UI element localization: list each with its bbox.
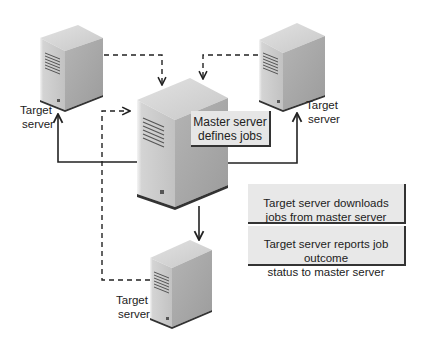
diagram-canvas bbox=[0, 0, 426, 343]
target-server-bottom-icon bbox=[150, 240, 212, 329]
arrow-top-right-to-master bbox=[203, 55, 258, 79]
callout-line: Master server bbox=[191, 115, 269, 129]
label-line: server bbox=[20, 117, 54, 131]
legend-line: jobs from master server bbox=[248, 210, 404, 224]
label-line: server bbox=[116, 307, 150, 321]
target-server-bottom-label: Target server bbox=[116, 293, 150, 321]
label-line: Target bbox=[20, 103, 54, 117]
label-line: Target bbox=[116, 293, 150, 307]
target-server-top-left-label: Target server bbox=[20, 103, 54, 131]
label-line: server bbox=[306, 112, 340, 126]
legend-item-solid: Target server downloads jobs from master… bbox=[248, 184, 406, 224]
target-server-top-left-icon bbox=[40, 25, 103, 112]
arrow-top-left-to-master bbox=[104, 55, 162, 85]
arrow-master-to-top-left bbox=[58, 114, 137, 162]
legend-line: Target server reports job outcome bbox=[248, 237, 404, 265]
master-server-callout: Master server defines jobs bbox=[191, 111, 271, 147]
legend-item-dashed: Target server reports job outcome status… bbox=[248, 226, 406, 266]
legend-line: Target server downloads bbox=[248, 196, 404, 210]
label-line: Target bbox=[306, 98, 340, 112]
callout-line: defines jobs bbox=[191, 129, 269, 143]
target-server-top-right-label: Target server bbox=[306, 98, 340, 126]
legend-line: status to master server bbox=[248, 265, 404, 279]
